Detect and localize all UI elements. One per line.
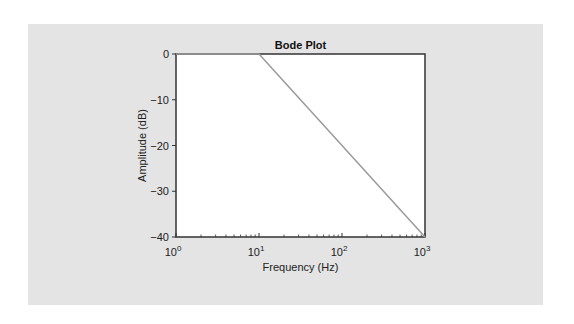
y-tick-label: −40: [150, 231, 169, 243]
x-tick-label: 103: [414, 244, 431, 258]
x-tick-label: 100: [165, 244, 182, 258]
chart-title: Bode Plot: [275, 39, 327, 51]
x-axis-label: Frequency (Hz): [263, 261, 339, 273]
x-tick-label: 101: [248, 244, 265, 258]
y-tick-label: −30: [150, 185, 169, 197]
plot-area: [176, 54, 425, 237]
y-axis-label: Amplitude (dB): [136, 109, 148, 182]
y-tick-label: 0: [163, 48, 169, 60]
y-tick-label: −10: [150, 94, 169, 106]
y-tick-label: −20: [150, 140, 169, 152]
bode-plot-chart: 0−10−20−30−40100101102103Bode PlotFreque…: [0, 0, 574, 324]
x-tick-label: 102: [331, 244, 348, 258]
